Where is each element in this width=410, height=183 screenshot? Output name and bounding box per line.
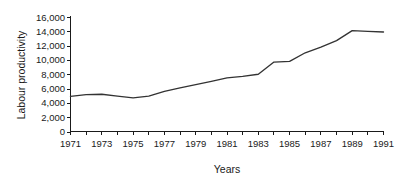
x-tick-label: 1973 (91, 138, 112, 149)
x-tick-label: 1985 (279, 138, 300, 149)
x-tick-label: 1987 (310, 138, 331, 149)
y-axis-title: Labour productivity (15, 30, 27, 119)
y-axis-tick-marks (67, 18, 71, 133)
labour-productivity-line (71, 31, 384, 98)
y-tick-label: 12,000 (36, 40, 65, 51)
x-tick-label: 1981 (216, 138, 237, 149)
x-tick-label: 1975 (123, 138, 144, 149)
x-tick-label: 1977 (154, 138, 175, 149)
x-tick-label: 1989 (342, 138, 363, 149)
x-axis-title-text: Years (214, 163, 240, 175)
line-chart-figure: Labour productivity Years 02,0004,0006,0… (0, 0, 410, 183)
y-tick-label: 4,000 (41, 97, 65, 108)
y-tick-label: 8,000 (41, 69, 65, 80)
x-axis-tick-marks (71, 132, 384, 136)
x-tick-label: 1983 (248, 138, 269, 149)
x-tick-label: 1991 (373, 138, 394, 149)
x-tick-label: 1979 (185, 138, 206, 149)
x-axis-title: Years (214, 163, 240, 175)
y-tick-label: 16,000 (36, 12, 65, 23)
chart-canvas: Labour productivity Years 02,0004,0006,0… (0, 0, 410, 183)
y-tick-label: 2,000 (41, 112, 65, 123)
x-axis-tick-labels: 1971197319751977197919811983198519871989… (60, 138, 394, 149)
y-tick-label: 10,000 (36, 54, 65, 65)
y-axis-title-text: Labour productivity (15, 30, 27, 119)
y-tick-label: 14,000 (36, 26, 65, 37)
y-tick-label: 0 (60, 126, 65, 137)
y-axis-tick-labels: 02,0004,0006,0008,00010,00012,00014,0001… (36, 12, 65, 138)
x-tick-label: 1971 (60, 138, 81, 149)
y-tick-label: 6,000 (41, 83, 65, 94)
